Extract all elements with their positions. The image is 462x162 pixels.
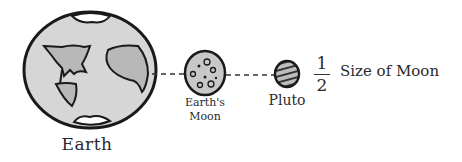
- pluto-icon: [272, 58, 302, 90]
- fraction-numerator: 1: [314, 54, 330, 72]
- size-comparison-text: Size of Moon: [340, 62, 439, 80]
- moon-icon: [185, 51, 225, 95]
- moon-label-line1: Earth's: [185, 96, 225, 109]
- fraction-one-half: 1 2: [314, 54, 330, 94]
- pluto-label: Pluto: [262, 92, 312, 108]
- fraction-denominator: 2: [314, 76, 330, 94]
- earth-icon: [24, 12, 156, 128]
- earth-label: Earth: [52, 134, 122, 154]
- moon-label: Earth's Moon: [180, 96, 230, 124]
- moon-label-line2: Moon: [189, 110, 221, 123]
